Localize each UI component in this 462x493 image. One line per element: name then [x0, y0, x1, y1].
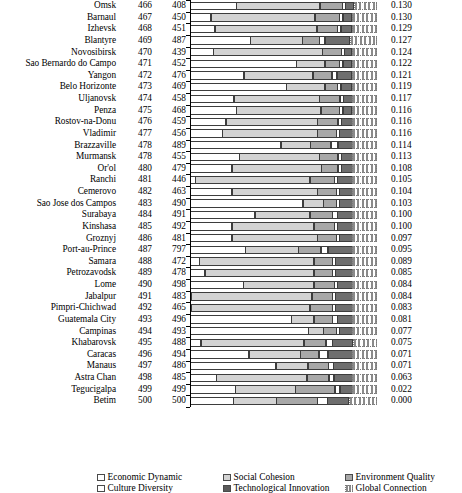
rank-primary: 483	[122, 198, 152, 210]
chart-row: Pimpri-Chichwad4924650.083	[0, 302, 462, 314]
bar-segment-techno	[335, 292, 352, 300]
legend-item-techno[interactable]: Technological Innovation	[223, 483, 345, 493]
value-label: 0.121	[386, 70, 426, 82]
rank-primary: 487	[122, 244, 152, 256]
bar-segment-environment	[323, 199, 336, 207]
value-label: 0.113	[386, 151, 426, 163]
legend-swatch-environment-icon	[345, 474, 353, 482]
value-label: 0.084	[386, 291, 426, 303]
value-label: 0.095	[386, 244, 426, 256]
legend-label: Environment Quality	[356, 472, 435, 483]
legend-label: Economic Dynamic	[108, 472, 183, 483]
chart-row: Port-au-Prince4877970.095	[0, 244, 462, 256]
category-label: Caracas	[0, 349, 122, 361]
bar-segment-techno	[337, 315, 352, 323]
bar-segment-global	[352, 292, 377, 300]
chart-row: Ranchi4814460.105	[0, 174, 462, 186]
axis-tick	[186, 12, 190, 13]
bar-plot-cell	[190, 349, 386, 361]
chart-row: Petrozavodsk4894780.085	[0, 267, 462, 279]
value-label: 0.116	[386, 128, 426, 140]
stacked-bar	[190, 199, 376, 207]
bar-plot-cell	[190, 70, 386, 82]
bar-segment-environment	[298, 246, 321, 254]
value-label: 0.077	[386, 326, 426, 338]
bar-segment-environment	[321, 106, 340, 114]
bar-segment-global	[352, 199, 377, 207]
rank-primary: 478	[122, 151, 152, 163]
chart-row: Izhevsk4684510.129	[0, 23, 462, 35]
rank-secondary: 797	[152, 244, 190, 256]
axis-tick	[186, 186, 190, 187]
legend-item-economic[interactable]: Economic Dynamic	[97, 472, 223, 483]
bar-segment-social	[235, 385, 296, 393]
bar-segment-global	[352, 25, 377, 33]
bar-segment-global	[352, 385, 377, 393]
bar-segment-global	[352, 246, 377, 254]
bar-plot-cell	[190, 337, 386, 349]
bar-segment-social	[276, 362, 309, 370]
bar-segment-environment	[295, 385, 335, 393]
bar-plot-cell	[190, 244, 386, 256]
axis-tick	[186, 209, 190, 210]
bar-segment-social	[255, 211, 311, 219]
stacked-bar	[190, 211, 376, 219]
category-label: Manaus	[0, 360, 122, 372]
bar-plot-cell	[190, 12, 386, 24]
chart-row: Or'ol4804790.108	[0, 163, 462, 175]
bar-segment-economic	[190, 269, 205, 277]
bar-plot-cell	[190, 163, 386, 175]
bar-plot-cell	[190, 360, 386, 372]
chart-row: Groznyj4864810.097	[0, 233, 462, 245]
stacked-bar	[190, 118, 376, 126]
rank-secondary: 500	[152, 395, 190, 407]
value-label: 0.129	[386, 23, 426, 35]
chart-row: Belo Horizonte4734690.119	[0, 81, 462, 93]
axis-tick	[186, 151, 190, 152]
value-label: 0.119	[386, 81, 426, 93]
bar-segment-economic	[190, 327, 309, 335]
legend-item-social[interactable]: Social Cohesion	[223, 472, 345, 483]
value-label: 0.108	[386, 163, 426, 175]
legend-item-environment[interactable]: Environment Quality	[345, 472, 462, 483]
axis-tick	[186, 163, 190, 164]
bar-segment-environment	[312, 292, 333, 300]
legend-item-global[interactable]: Global Connection	[345, 483, 462, 493]
bar-segment-economic	[190, 397, 234, 405]
rank-primary: 473	[122, 81, 152, 93]
rank-secondary: 469	[152, 81, 190, 93]
rank-secondary: 463	[152, 186, 190, 198]
bar-segment-environment	[314, 222, 335, 230]
axis-tick	[186, 372, 190, 373]
value-label: 0.071	[386, 360, 426, 372]
rank-primary: 468	[122, 23, 152, 35]
category-label: Blantyre	[0, 35, 122, 47]
rank-secondary: 476	[152, 70, 190, 82]
rank-secondary: 496	[152, 314, 190, 326]
stacked-bar	[190, 385, 376, 393]
category-label: Surabaya	[0, 209, 122, 221]
legend-swatch-global-icon	[345, 485, 353, 493]
rank-secondary: 458	[152, 93, 190, 105]
bar-segment-social	[296, 60, 325, 68]
bar-segment-social	[232, 222, 315, 230]
bar-plot-cell	[190, 128, 386, 140]
bar-segment-global	[352, 106, 377, 114]
legend-item-culture[interactable]: Culture Diversity	[97, 483, 223, 493]
y-axis-spine	[190, 0, 191, 407]
rank-secondary: 456	[152, 128, 190, 140]
rank-primary: 498	[122, 372, 152, 384]
rank-primary: 486	[122, 233, 152, 245]
rank-primary: 500	[122, 395, 152, 407]
bar-segment-environment	[310, 211, 333, 219]
bar-segment-environment	[314, 281, 335, 289]
bar-segment-global	[352, 83, 377, 91]
bar-segment-global	[352, 234, 377, 242]
bar-segment-social	[222, 129, 318, 137]
bar-segment-economic	[190, 222, 232, 230]
bar-segment-social	[211, 13, 316, 21]
chart-row: Samara4884720.089	[0, 256, 462, 268]
axis-tick	[186, 140, 190, 141]
rank-secondary: 468	[152, 105, 190, 117]
bar-segment-environment	[319, 95, 340, 103]
